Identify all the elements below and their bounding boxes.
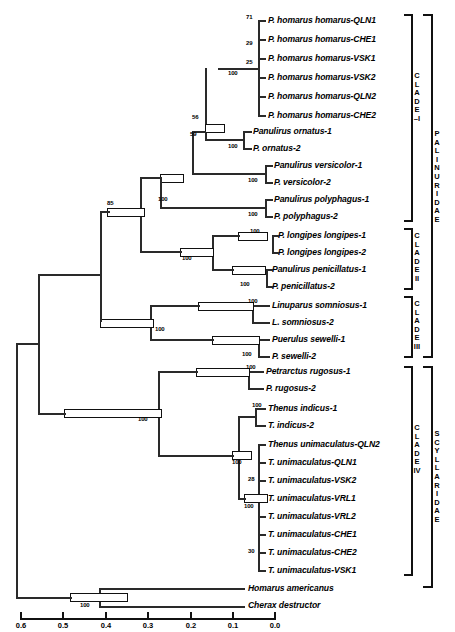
branch-horizontal (218, 68, 258, 70)
node-support-box (244, 494, 268, 503)
taxon-label: Homarus americanus (248, 584, 334, 593)
branch-horizontal (212, 269, 234, 271)
branch-horizontal (238, 498, 246, 500)
scale-tick (232, 612, 234, 619)
bootstrap-value: 28 (248, 476, 254, 482)
scale-tick-label: 0.1 (218, 622, 248, 630)
taxon-label: P. polyphagus-2 (274, 212, 338, 221)
branch-horizontal (243, 131, 252, 133)
node-support-box (198, 302, 254, 311)
taxon-label: Petrarctus rugosus-1 (266, 367, 350, 376)
bootstrap-value: 100 (138, 416, 147, 422)
bootstrap-value: 25 (246, 59, 252, 65)
taxon-label: L. somniosus-2 (272, 318, 334, 327)
taxon-label: Puerulus sewelli-1 (272, 335, 345, 344)
branch-horizontal (258, 462, 266, 464)
family-label-scyllaridae: S C Y L L A R I D A E (430, 430, 444, 525)
branch-horizontal (265, 165, 273, 167)
branch-vertical (100, 211, 102, 322)
branch-horizontal (258, 77, 266, 79)
scale-tick (62, 612, 64, 619)
taxon-label: T. unimaculatus-QLN1 (268, 458, 357, 467)
branch-horizontal (99, 588, 245, 590)
node-support-box (232, 266, 266, 275)
branch-horizontal (252, 305, 270, 307)
branch-horizontal (38, 413, 66, 415)
scale-tick-label: 0.4 (91, 622, 121, 630)
taxon-label: Thenus indicus-1 (268, 404, 337, 413)
branch-horizontal (258, 39, 266, 41)
branch-horizontal (258, 356, 270, 358)
taxon-label: Panulirus versicolor-1 (274, 161, 362, 170)
branch-vertical (192, 131, 194, 173)
taxon-label: P. homarus homarus-CHE1 (268, 35, 376, 44)
branch-horizontal (258, 570, 266, 572)
taxon-label: P. homarus homarus-QLN2 (268, 92, 376, 101)
bootstrap-value: 30 (248, 548, 254, 554)
node-support-box (70, 593, 128, 602)
branch-vertical (265, 199, 267, 216)
family-label-palinuridae: P A L I N U R I D A E (430, 130, 444, 225)
bootstrap-value: 100 (155, 326, 164, 332)
clade-label-iv: C L A D E IV (411, 424, 423, 476)
branch-horizontal (192, 173, 265, 175)
bootstrap-value: 100 (158, 196, 167, 202)
scale-tick-label: 0.2 (176, 622, 206, 630)
taxon-label: P. longipes longipes-2 (278, 248, 366, 257)
scale-tick (147, 612, 149, 619)
taxon-label: T. indicus-2 (268, 421, 314, 430)
branch-horizontal (272, 252, 279, 254)
node-support-box (205, 124, 225, 133)
branch-horizontal (212, 235, 240, 237)
scale-tick (20, 612, 22, 619)
branch-horizontal (158, 455, 234, 457)
node-support-box (196, 368, 250, 377)
branch-horizontal (258, 20, 266, 22)
branch-horizontal (140, 177, 162, 179)
scale-tick (190, 612, 192, 619)
bootstrap-value: 100 (248, 298, 257, 304)
branch-horizontal (248, 371, 264, 373)
branch-vertical (243, 131, 245, 148)
taxon-label: P. ornatus-2 (253, 144, 300, 153)
bootstrap-value: 100 (250, 228, 259, 234)
branch-horizontal (265, 199, 273, 201)
branch-horizontal (150, 305, 200, 307)
branch-horizontal (252, 322, 270, 324)
bootstrap-value: 29 (246, 40, 252, 46)
taxon-label: Panulirus ornatus-1 (253, 127, 332, 136)
bootstrap-value: 100 (244, 503, 253, 509)
taxon-label: T. unimaculatus-VSK2 (268, 476, 356, 485)
taxon-label: Panulirus polyphagus-1 (274, 195, 369, 204)
branch-horizontal (258, 516, 266, 518)
bootstrap-value: 100 (182, 255, 191, 261)
scale-tick (274, 612, 276, 619)
taxon-label: T. unimaculatus-CHE2 (268, 548, 357, 557)
bootstrap-value: 71 (246, 14, 252, 20)
bootstrap-value: 100 (232, 459, 241, 465)
branch-horizontal (265, 216, 273, 218)
branch-horizontal (38, 274, 100, 276)
branch-horizontal (255, 408, 266, 410)
branch-horizontal (265, 182, 273, 184)
node-support-box (212, 336, 260, 345)
branch-horizontal (272, 235, 279, 237)
bootstrap-value: 100 (240, 281, 249, 287)
branch-horizontal (258, 480, 266, 482)
branch-horizontal (258, 534, 266, 536)
taxon-label: Thenus unimaculatus-QLN2 (268, 440, 380, 449)
bootstrap-value: 59 (190, 131, 196, 137)
branch-horizontal (238, 416, 256, 418)
taxon-label: T. unimaculatus-VRL1 (268, 494, 356, 503)
branch-horizontal (255, 425, 266, 427)
clade-label-iii: C L A D E III (411, 300, 423, 352)
taxon-label: P. homarus homarus-QLN1 (268, 16, 376, 25)
bootstrap-value: 56 (192, 114, 198, 120)
branch-vertical (160, 177, 162, 207)
scale-tick-label: 0.0 (260, 622, 290, 630)
bootstrap-value: 100 (248, 177, 257, 183)
branch-vertical (272, 235, 274, 252)
branch-horizontal (266, 286, 273, 288)
branch-horizontal (258, 96, 266, 98)
taxon-label: Cherax destructor (248, 601, 320, 610)
